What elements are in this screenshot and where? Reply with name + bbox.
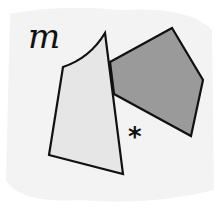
label-star: * — [128, 122, 142, 152]
diagram-svg: m * — [0, 0, 218, 210]
diagram-canvas: m * — [0, 0, 218, 210]
label-m: m — [28, 16, 60, 56]
